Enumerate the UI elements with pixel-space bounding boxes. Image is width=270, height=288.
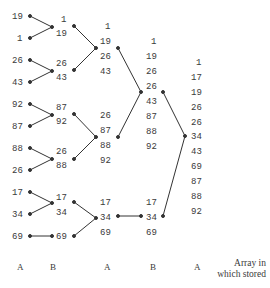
value: 1 [61,15,66,25]
value: 87 [56,103,67,113]
value: 26 [191,103,202,113]
value: 87 [191,177,202,187]
value: 1 [196,58,201,68]
value: 1 [17,34,22,44]
value: 43 [191,147,202,157]
value: 88 [12,144,23,154]
value: 43 [100,67,111,77]
value: 92 [12,100,23,110]
value: 19 [191,88,202,98]
value: 43 [56,73,67,83]
value: 26 [56,59,67,69]
value: 17 [12,188,23,198]
value: 87 [100,126,111,136]
value: 92 [191,207,202,217]
value: 88 [56,161,67,171]
value: 17 [191,73,202,83]
value: 34 [191,132,202,142]
value: 26 [12,56,23,66]
caption-line-1: Array in [208,258,266,269]
column-label: A [194,262,201,272]
value: 19 [56,29,67,39]
value: 69 [12,232,23,242]
value: 26 [100,111,111,121]
value: 17 [56,193,67,203]
value: 26 [12,166,23,176]
value: 43 [12,78,23,88]
value: 19 [146,52,157,62]
value: 26 [100,52,111,62]
caption: Array in which stored [208,258,266,280]
value: 88 [191,192,202,202]
value: 88 [146,127,157,137]
value: 69 [56,232,67,242]
value: 43 [146,97,157,107]
column-label: A [17,262,24,272]
value: 34 [100,213,111,223]
merge-sort-diagram: 19 1 26 43 92 87 88 26 17 34 69 1 19 26 … [0,0,270,288]
value: 1 [151,37,156,47]
value: 17 [100,198,111,208]
connector-lines [0,0,270,288]
value: 17 [146,198,157,208]
value: 92 [56,117,67,127]
value: 34 [56,208,67,218]
caption-line-2: which stored [208,269,266,280]
value: 26 [146,67,157,77]
value: 92 [146,142,157,152]
value: 26 [191,118,202,128]
value: 69 [191,162,202,172]
value: 34 [146,213,157,223]
value: 34 [12,210,23,220]
column-label: B [150,262,156,272]
value: 69 [146,228,157,238]
value: 26 [56,147,67,157]
column-label: B [50,262,56,272]
value: 1 [105,22,110,32]
column-label: A [104,262,111,272]
value: 26 [146,82,157,92]
value: 19 [100,37,111,47]
value: 87 [12,122,23,132]
value: 88 [100,141,111,151]
value: 19 [12,12,23,22]
value: 87 [146,112,157,122]
value: 69 [100,228,111,238]
value: 92 [100,156,111,166]
